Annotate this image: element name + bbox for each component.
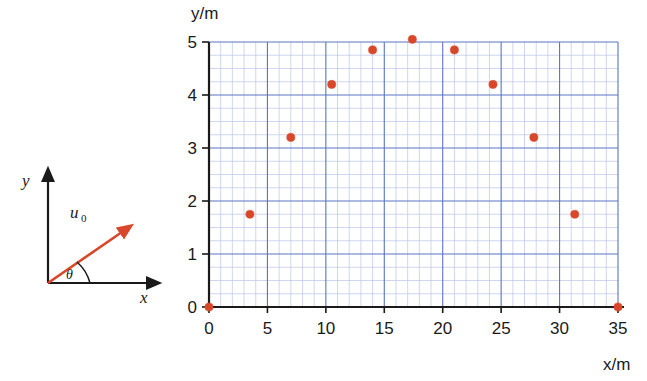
data-point xyxy=(408,35,416,43)
velocity-vector-arrow xyxy=(48,232,122,283)
data-point xyxy=(489,80,497,88)
y-tick-label: 4 xyxy=(188,86,197,105)
data-point xyxy=(369,46,377,54)
x-axis-title: x/m xyxy=(603,355,630,374)
x-tick-label: 35 xyxy=(609,319,628,338)
data-point xyxy=(287,133,295,141)
plot-ticks xyxy=(202,42,618,313)
x-tick-label: 5 xyxy=(263,319,272,338)
vector-diagram-svg: y x θ u 0 xyxy=(0,0,185,381)
y-tick-label: 5 xyxy=(188,33,197,52)
x-tick-label: 25 xyxy=(492,319,511,338)
data-point xyxy=(450,46,458,54)
angle-arc xyxy=(77,262,90,283)
vector-diagram: y x θ u 0 xyxy=(0,0,185,381)
angle-theta-label: θ xyxy=(66,267,73,282)
x-tick-label: 10 xyxy=(316,319,335,338)
x-tick-label: 15 xyxy=(375,319,394,338)
x-tick-label: 30 xyxy=(550,319,569,338)
x-tick-label: 20 xyxy=(433,319,452,338)
y-tick-label: 3 xyxy=(188,139,197,158)
x-tick-label: 0 xyxy=(204,319,213,338)
velocity-vector-label-subscript: 0 xyxy=(81,212,87,224)
data-point xyxy=(246,210,254,218)
data-point xyxy=(328,80,336,88)
scatter-plot-svg: 05101520253035012345 y/m x/m xyxy=(185,0,647,381)
data-point xyxy=(614,303,622,311)
data-point xyxy=(205,303,213,311)
data-point xyxy=(571,210,579,218)
vector-diagram-x-label: x xyxy=(139,288,148,307)
y-tick-label: 0 xyxy=(188,298,197,317)
grid-minor xyxy=(209,42,618,307)
y-axis-title: y/m xyxy=(191,4,218,23)
velocity-vector-label: u xyxy=(70,203,79,222)
vector-diagram-y-label: y xyxy=(20,171,30,190)
y-tick-label: 2 xyxy=(188,192,197,211)
y-tick-label: 1 xyxy=(188,245,197,264)
data-point xyxy=(530,133,538,141)
scatter-plot: 05101520253035012345 y/m x/m xyxy=(185,0,647,381)
